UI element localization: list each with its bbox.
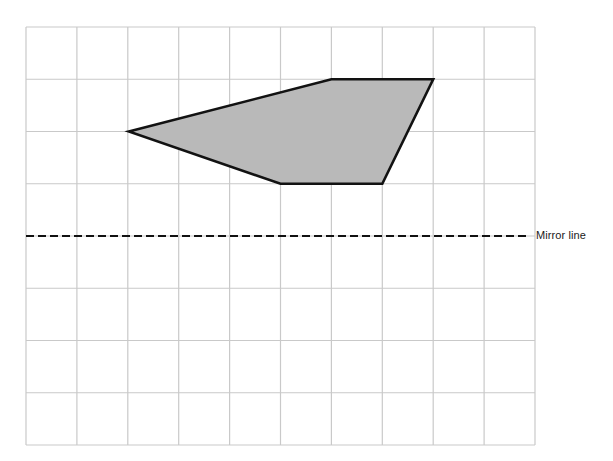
shaded-pentagon xyxy=(129,79,433,184)
figure-svg xyxy=(0,0,613,461)
mirror-line-label: Mirror line xyxy=(536,230,586,241)
worksheet-canvas: Mirror line xyxy=(0,0,613,461)
